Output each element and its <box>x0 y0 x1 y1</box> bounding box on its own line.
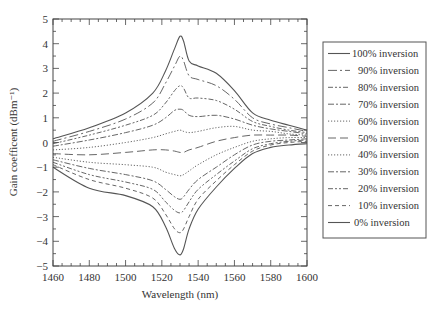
x-tick-label: 1560 <box>223 271 246 283</box>
y-axis-title: Gain coefficent (dBm⁻¹) <box>7 87 20 196</box>
legend-label: 0% inversion <box>354 217 410 228</box>
x-tick-label: 1540 <box>187 271 210 283</box>
y-tick-label: −2 <box>36 186 48 198</box>
y-tick-label: 3 <box>43 62 49 74</box>
series-line-60-inversion <box>53 126 307 150</box>
y-tick-labels: 543210−1−2−3−4−5 <box>36 13 48 272</box>
x-tick-label: 1600 <box>296 271 319 283</box>
x-tick-label: 1480 <box>78 271 101 283</box>
legend-label: 20% inversion <box>358 183 420 194</box>
y-tick-label: 5 <box>43 13 49 25</box>
x-tick-label: 1520 <box>151 271 174 283</box>
y-tick-label: 4 <box>43 38 49 50</box>
plot-lines <box>53 36 307 255</box>
y-tick-label: −1 <box>36 161 48 173</box>
legend-label: 100% inversion <box>352 48 419 59</box>
series-line-70-inversion <box>53 109 307 146</box>
y-tick-label: 2 <box>43 87 49 99</box>
axis-ticks <box>53 19 307 266</box>
series-line-90-inversion <box>53 56 307 141</box>
y-tick-label: −3 <box>36 211 48 223</box>
legend-label: 60% inversion <box>358 116 420 127</box>
y-tick-label: −4 <box>36 235 48 247</box>
legend-label: 40% inversion <box>358 149 420 160</box>
legend-label: 90% inversion <box>358 65 420 76</box>
legend-label: 30% inversion <box>358 166 420 177</box>
series-line-20-inversion <box>53 140 307 213</box>
x-axis-title: Wavelength (nm) <box>142 288 219 301</box>
gain-spectrum-chart: 543210−1−2−3−4−5 14601480150015201540156… <box>0 0 437 311</box>
y-tick-label: 1 <box>43 112 49 124</box>
series-line-50-inversion <box>53 135 307 155</box>
legend-label: 80% inversion <box>358 82 420 93</box>
plot-frame <box>53 19 307 266</box>
y-tick-label: 0 <box>43 137 49 149</box>
series-line-40-inversion <box>53 138 307 176</box>
legend-label: 10% inversion <box>358 200 420 211</box>
x-tick-label: 1500 <box>115 271 138 283</box>
legend: 100% inversion90% inversion80% inversion… <box>323 42 426 238</box>
x-tick-label: 1460 <box>42 271 65 283</box>
legend-label: 70% inversion <box>358 99 420 110</box>
x-tick-label: 1580 <box>260 271 283 283</box>
x-tick-labels: 14601480150015201540156015801600 <box>42 271 319 283</box>
legend-label: 50% inversion <box>358 133 420 144</box>
